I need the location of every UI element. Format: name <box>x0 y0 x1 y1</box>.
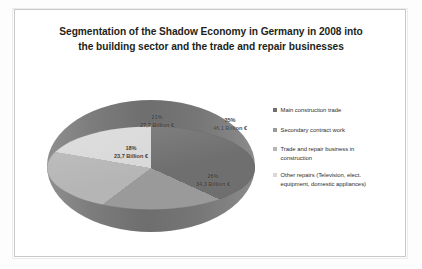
chart-title: Segmentation of the Shadow Economy in Ge… <box>41 24 381 54</box>
pie-data-label-percent: 21% <box>121 113 193 121</box>
pie-slices[interactable] <box>47 126 255 209</box>
pie-data-label-value: 34,3 Billion € <box>177 180 249 188</box>
chart-title-line-1: Segmentation of the Shadow Economy in Ge… <box>59 26 362 37</box>
pie-data-label-secondary-contract-work: 26% 34,3 Billion € <box>177 172 249 188</box>
chart-title-line-2: the building sector and the trade and re… <box>41 39 381 54</box>
pie-data-label-percent: 18% <box>95 144 167 152</box>
chart-page: Segmentation of the Shadow Economy in Ge… <box>0 0 422 269</box>
legend-swatch-icon <box>273 173 277 177</box>
pie-data-label-trade-and-repair-business: 18% 23,7 Billion € <box>95 144 167 160</box>
legend-item-label-line-1: Trade and repair business in <box>281 146 355 152</box>
pie-data-label-other-repairs: 21% 27,7 Billion € <box>121 113 193 129</box>
pie-data-label-main-construction-trade: 35% 46,1 Billion € <box>197 116 263 132</box>
pie-graphic: 35% 46,1 Billion € 26% 34,3 Billion € 18… <box>47 80 255 230</box>
legend-item-label: Other repairs (Television, elect. equipm… <box>281 171 410 188</box>
pie-data-label-value: 46,1 Billion € <box>197 124 263 132</box>
legend-item-label-line-1: Other repairs (Television, elect. <box>281 172 362 178</box>
pie-data-label-value: 23,7 Billion € <box>95 152 167 160</box>
legend-item-label: Main construction trade <box>281 106 410 115</box>
pie-data-label-percent: 35% <box>197 116 263 124</box>
legend-item-other-repairs[interactable]: Other repairs (Television, elect. equipm… <box>273 171 409 188</box>
legend-item-label: Trade and repair business in constructio… <box>281 145 410 162</box>
legend-item-label-line-2: equipment, domestic appliances) <box>281 181 367 187</box>
legend-item-main-construction-trade[interactable]: Main construction trade <box>273 106 409 115</box>
chart-legend: Main construction trade Secondary contra… <box>273 106 409 189</box>
legend-item-label: Secondary contract work <box>281 126 410 135</box>
legend-swatch-icon <box>273 108 277 112</box>
chart-frame: Segmentation of the Shadow Economy in Ge… <box>14 9 406 257</box>
pie-data-label-value: 27,7 Billion € <box>121 121 193 129</box>
legend-item-secondary-contract-work[interactable]: Secondary contract work <box>273 126 409 135</box>
legend-item-label-line-2: construction <box>281 155 313 161</box>
legend-item-trade-and-repair-business[interactable]: Trade and repair business in constructio… <box>273 145 409 162</box>
pie-chart-plot-area: 35% 46,1 Billion € 26% 34,3 Billion € 18… <box>39 72 269 252</box>
legend-swatch-icon <box>273 147 277 151</box>
pie-data-label-percent: 26% <box>177 172 249 180</box>
legend-swatch-icon <box>273 128 277 132</box>
